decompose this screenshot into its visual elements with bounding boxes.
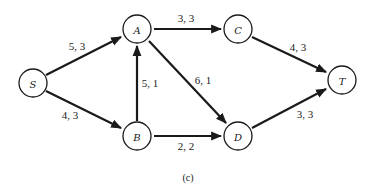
node-label-a: A: [132, 25, 140, 36]
edge-d-t: [252, 89, 326, 128]
node-label-b: B: [132, 132, 140, 143]
edge-label-d-t: 3, 3: [297, 108, 314, 120]
edge-label-b-a: 5, 1: [142, 77, 159, 89]
node-d: D: [224, 122, 252, 150]
edge-s-b: [46, 91, 121, 128]
edge-a-d: [149, 41, 226, 123]
edge-label-c-t: 4, 3: [290, 41, 307, 53]
flow-network-diagram: 5, 3 4, 3 5, 1 3, 3 6, 1 2, 2 4, 3 3, 3 …: [0, 0, 378, 185]
edge-label-s-b: 4, 3: [62, 109, 79, 121]
node-s: S: [19, 69, 47, 97]
edge-label-a-c: 3, 3: [178, 12, 195, 24]
node-a: A: [123, 15, 151, 43]
node-label-s: S: [30, 79, 37, 90]
node-t: T: [328, 66, 356, 94]
node-label-c: C: [234, 25, 242, 36]
figure-caption: (c): [182, 172, 193, 184]
edge-label-a-d: 6, 1: [195, 74, 212, 86]
edge-label-s-a: 5, 3: [69, 40, 86, 52]
node-c: C: [224, 15, 252, 43]
edge-label-b-d: 2, 2: [178, 140, 195, 152]
node-b: B: [123, 122, 151, 150]
node-label-d: D: [233, 132, 242, 143]
